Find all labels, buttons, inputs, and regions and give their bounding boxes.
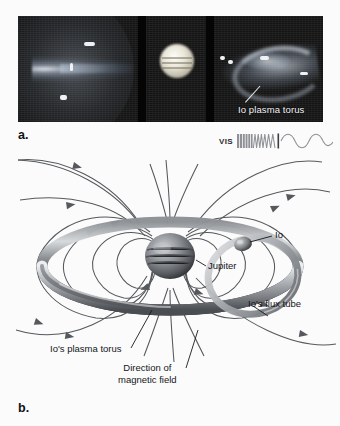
leader-field-dir: [186, 330, 198, 368]
field-arrow: [66, 201, 76, 209]
cloud-band: [162, 57, 192, 59]
jupiter-planet: [145, 233, 195, 279]
bright-spot: [260, 56, 269, 60]
bright-spot: [220, 56, 225, 60]
field-arrow: [299, 330, 309, 339]
field-line: [166, 160, 170, 222]
wavelength-scale-graphic: [237, 133, 333, 149]
leader-jupiter: [196, 260, 206, 266]
field-arrow: [34, 318, 45, 328]
panel-a-letter: a.: [18, 128, 28, 142]
cloud-band: [162, 62, 192, 64]
label-io-flux-tube: Io's flux tube: [248, 298, 301, 310]
io-plasma-torus-photo-label: Io plasma torus: [238, 104, 304, 115]
jupiter-highlight: [153, 242, 171, 254]
bright-spot: [300, 72, 308, 75]
field-arrow: [194, 288, 205, 298]
label-io-plasma-torus: Io's plasma torus: [50, 343, 122, 355]
field-line: [144, 288, 168, 356]
field-line: [18, 160, 140, 224]
panel-a-photograph: Io plasma torus: [18, 16, 323, 122]
spectrum-scale: VIS: [219, 133, 333, 149]
field-direction-line-1: Direction of: [118, 362, 177, 374]
figure-root: Io plasma torus a. VIS: [0, 0, 340, 426]
photo-subframe-middle: [146, 16, 206, 122]
field-line: [170, 290, 174, 362]
plasma-torus-core: [244, 52, 290, 70]
cloud-band: [162, 67, 192, 69]
panel-b-diagram: Jupiter Io Io's flux tube Io's plasma to…: [0, 158, 340, 408]
vis-band-label: VIS: [219, 137, 233, 146]
panel-b-letter: b.: [18, 401, 29, 415]
photo-subframe-left: [18, 16, 138, 122]
field-arrow: [65, 332, 75, 341]
field-arrow: [270, 202, 281, 212]
field-line: [172, 164, 198, 224]
label-jupiter: Jupiter: [208, 260, 237, 272]
bright-spot: [70, 63, 73, 71]
frame-divider: [206, 16, 214, 122]
frame-divider: [138, 16, 146, 122]
jupiter-disk: [160, 44, 194, 78]
field-arrow: [286, 192, 296, 201]
field-direction-line-2: magnetic field: [118, 374, 177, 386]
bright-spot: [60, 95, 67, 100]
label-direction-of-magnetic-field: Direction of magnetic field: [118, 362, 177, 386]
field-line: [150, 164, 168, 224]
field-arrow: [72, 162, 82, 171]
photo-frame: Io plasma torus: [18, 16, 323, 122]
bright-spot: [228, 60, 233, 64]
label-io: Io: [275, 229, 283, 241]
bright-spot: [84, 42, 95, 46]
field-line: [196, 161, 322, 224]
